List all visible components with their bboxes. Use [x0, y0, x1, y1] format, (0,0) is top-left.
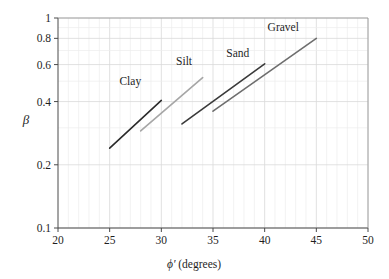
x-tick-label: 30	[156, 234, 168, 246]
y-axis-title: β	[22, 112, 30, 127]
x-tick-label: 20	[52, 234, 64, 246]
x-tick-label: 35	[207, 234, 219, 246]
series-label-silt: Silt	[176, 55, 193, 67]
x-tick-label: 50	[362, 234, 374, 246]
y-tick-label: 0.4	[37, 96, 52, 108]
x-tick-label: 45	[311, 234, 323, 246]
series-label-gravel: Gravel	[268, 21, 299, 33]
x-tick-label: 25	[104, 234, 116, 246]
y-tick-label: 0.1	[37, 222, 52, 234]
x-tick-label: 40	[259, 234, 271, 246]
beta-vs-phi-chart: 20253035404550 0.10.20.40.60.81 ClaySilt…	[0, 0, 389, 279]
chart-figure: 20253035404550 0.10.20.40.60.81 ClaySilt…	[0, 0, 389, 279]
x-axis-title: ϕ′ (degrees)	[167, 258, 221, 271]
y-tick-label: 0.8	[37, 32, 52, 44]
y-tick-label: 0.2	[37, 159, 52, 171]
series-label-sand: Sand	[226, 47, 249, 59]
y-tick-label: 1	[45, 12, 51, 24]
series-label-clay: Clay	[119, 75, 141, 88]
y-tick-label: 0.6	[37, 59, 52, 71]
x-axis-title-units: (degrees)	[175, 258, 221, 271]
